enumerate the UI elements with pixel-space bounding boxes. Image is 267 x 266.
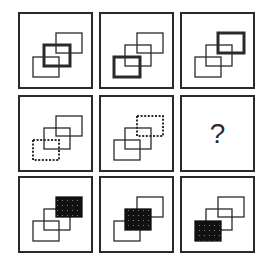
rectangle-top-right bbox=[56, 116, 82, 136]
rectangle-bottom-left bbox=[195, 57, 221, 77]
rectangles-figure bbox=[20, 14, 91, 87]
rectangle-middle bbox=[125, 209, 151, 230]
rectangle-bottom-left bbox=[114, 57, 140, 77]
cell-r1c1 bbox=[18, 12, 93, 89]
rectangle-top-right bbox=[218, 33, 244, 53]
cell-r3c2 bbox=[99, 176, 174, 253]
cell-r3c1 bbox=[18, 176, 93, 253]
cell-r2c3-missing[interactable]: ? bbox=[180, 95, 255, 172]
rectangle-bottom-left bbox=[114, 140, 140, 160]
cell-r1c2 bbox=[99, 12, 174, 89]
rectangles-figure bbox=[182, 178, 253, 251]
rectangle-middle bbox=[44, 128, 70, 149]
rectangle-top-right bbox=[56, 197, 82, 217]
cell-r2c2 bbox=[99, 95, 174, 172]
rectangles-figure bbox=[101, 178, 172, 251]
question-mark: ? bbox=[182, 97, 253, 170]
rectangles-figure bbox=[20, 97, 91, 170]
rectangles-figure bbox=[20, 178, 91, 251]
rectangle-bottom-left bbox=[195, 221, 221, 241]
rectangles-figure bbox=[101, 97, 172, 170]
rectangle-top-right bbox=[218, 197, 244, 217]
rectangle-middle bbox=[44, 45, 70, 66]
cell-r1c3 bbox=[180, 12, 255, 89]
rectangles-figure bbox=[101, 14, 172, 87]
rectangle-top-right bbox=[137, 33, 163, 53]
rectangle-bottom-left bbox=[33, 221, 59, 241]
rectangles-figure bbox=[182, 14, 253, 87]
rectangle-top-right bbox=[137, 116, 163, 136]
cell-r3c3 bbox=[180, 176, 255, 253]
cell-r2c1 bbox=[18, 95, 93, 172]
rectangle-bottom-left bbox=[33, 140, 59, 160]
